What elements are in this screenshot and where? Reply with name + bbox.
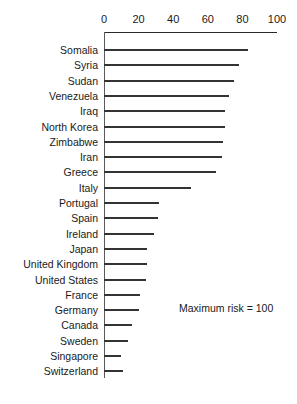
- chart-row: Zimbabwe: [0, 135, 297, 149]
- bar-japan: [104, 248, 147, 250]
- category-label-canada: Canada: [61, 318, 98, 332]
- category-label-sudan: Sudan: [68, 74, 98, 88]
- bar-canada: [104, 324, 132, 326]
- bar-rows: SomaliaSyriaSudanVenezuelaIraqNorth Kore…: [0, 0, 297, 404]
- chart-row: France: [0, 288, 297, 302]
- chart-row: North Korea: [0, 120, 297, 134]
- risk-bar-chart: 020406080100 SomaliaSyriaSudanVenezuelaI…: [0, 0, 297, 404]
- chart-row: Sweden: [0, 334, 297, 348]
- chart-row: Japan: [0, 242, 297, 256]
- category-label-greece: Greece: [64, 165, 98, 179]
- category-label-zimbabwe: Zimbabwe: [50, 135, 98, 149]
- category-label-syria: Syria: [74, 58, 98, 72]
- category-label-switzerland: Switzerland: [44, 364, 98, 378]
- bar-united-states: [104, 279, 146, 281]
- chart-row: United Kingdom: [0, 257, 297, 271]
- bar-italy: [104, 187, 191, 189]
- bar-north-korea: [104, 126, 225, 128]
- bar-ireland: [104, 233, 154, 235]
- category-label-spain: Spain: [71, 211, 98, 225]
- category-label-iraq: Iraq: [80, 104, 98, 118]
- chart-row: Iraq: [0, 104, 297, 118]
- bar-somalia: [104, 49, 248, 51]
- category-label-somalia: Somalia: [60, 43, 98, 57]
- bar-portugal: [104, 202, 159, 204]
- chart-row: Portugal: [0, 196, 297, 210]
- bar-sudan: [104, 80, 234, 82]
- bar-sweden: [104, 340, 128, 342]
- category-label-portugal: Portugal: [59, 196, 98, 210]
- chart-row: Syria: [0, 58, 297, 72]
- category-label-singapore: Singapore: [50, 349, 98, 363]
- category-label-italy: Italy: [79, 181, 98, 195]
- category-label-france: France: [65, 288, 98, 302]
- chart-row: Sudan: [0, 74, 297, 88]
- chart-row: Switzerland: [0, 364, 297, 378]
- category-label-iran: Iran: [80, 150, 98, 164]
- chart-row: Ireland: [0, 227, 297, 241]
- bar-zimbabwe: [104, 141, 223, 143]
- category-label-sweden: Sweden: [60, 334, 98, 348]
- chart-row: Canada: [0, 318, 297, 332]
- bar-france: [104, 294, 140, 296]
- category-label-venezuela: Venezuela: [49, 89, 98, 103]
- chart-row: Spain: [0, 211, 297, 225]
- chart-row: Greece: [0, 165, 297, 179]
- chart-row: Venezuela: [0, 89, 297, 103]
- bar-iraq: [104, 110, 225, 112]
- bar-greece: [104, 171, 216, 173]
- category-label-germany: Germany: [55, 303, 98, 317]
- chart-row: Singapore: [0, 349, 297, 363]
- category-label-united-kingdom: United Kingdom: [23, 257, 98, 271]
- bar-spain: [104, 217, 158, 219]
- chart-row: Iran: [0, 150, 297, 164]
- category-label-japan: Japan: [69, 242, 98, 256]
- chart-row: Italy: [0, 181, 297, 195]
- category-label-united-states: United States: [35, 273, 98, 287]
- bar-iran: [104, 156, 222, 158]
- bar-venezuela: [104, 95, 229, 97]
- chart-row: United States: [0, 273, 297, 287]
- bar-singapore: [104, 355, 121, 357]
- category-label-north-korea: North Korea: [41, 120, 98, 134]
- chart-row: Somalia: [0, 43, 297, 57]
- bar-syria: [104, 64, 239, 66]
- max-risk-annotation: Maximum risk = 100: [179, 301, 273, 315]
- bar-germany: [104, 309, 139, 311]
- bar-united-kingdom: [104, 263, 147, 265]
- category-label-ireland: Ireland: [66, 227, 98, 241]
- bar-switzerland: [104, 370, 123, 372]
